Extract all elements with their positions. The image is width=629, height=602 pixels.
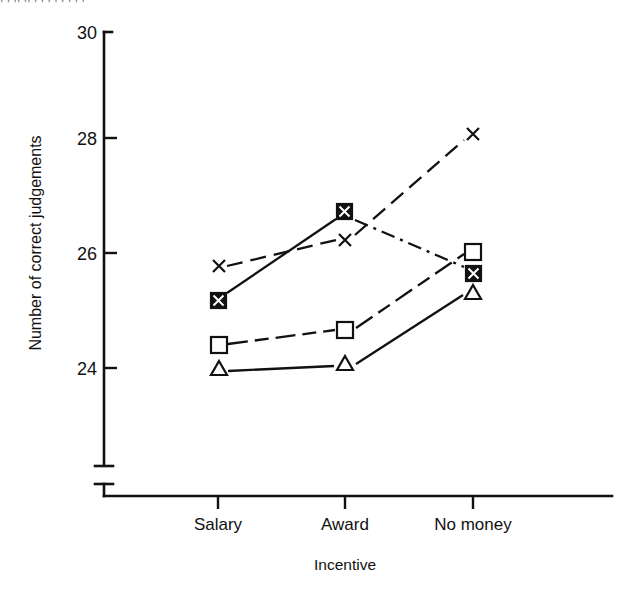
clipped-caption-text: , , ,, ,, , , , , , , , , (0, 0, 629, 3)
x-tick-label-award: Award (321, 515, 369, 534)
x-tick-label-no-money: No money (434, 515, 512, 534)
series-open-square-segment-2 (356, 254, 464, 328)
marker-cross-salary (213, 260, 225, 272)
series-crossed-square-segment-2 (355, 220, 464, 267)
series-crossed-square-segment-1 (227, 219, 336, 293)
x-axis: Salary Award No money Incentive (104, 496, 612, 573)
marker-crossed-square-award (337, 204, 352, 219)
marker-open-square-award (337, 322, 353, 338)
series-open-square-segment-1 (228, 330, 335, 344)
marker-open-triangle-salary (211, 361, 227, 375)
y-tick-label-30: 30 (77, 23, 97, 43)
y-axis: 30 28 26 24 Number of correct judgements (27, 23, 117, 496)
chart-figure: , , ,, ,, , , , , , , , , 30 28 26 24 Nu… (0, 0, 629, 602)
line-chart-svg: 30 28 26 24 Number of correct judgements… (0, 0, 629, 602)
marker-open-triangle-no-money (465, 285, 481, 299)
series-cross-segment-1 (227, 240, 336, 266)
marker-crossed-square-salary (211, 293, 226, 308)
y-tick-label-28: 28 (77, 129, 97, 149)
y-tick-label-26: 26 (77, 244, 97, 264)
x-tick-label-salary: Salary (194, 515, 243, 534)
series-cross (213, 128, 479, 272)
marker-crossed-square-no-money (466, 266, 481, 281)
y-tick-label-24: 24 (77, 359, 97, 379)
marker-open-square-salary (211, 337, 227, 353)
marker-open-triangle-award (337, 356, 353, 370)
series-crossed-square (211, 204, 481, 308)
y-axis-title: Number of correct judgements (27, 135, 44, 350)
x-axis-title: Incentive (314, 556, 376, 573)
marker-cross-award (339, 234, 351, 246)
series-cross-markers (213, 128, 479, 272)
series-open-triangle-segment-1 (228, 366, 334, 371)
marker-cross-no-money (467, 128, 479, 140)
series-open-triangle-segment-2 (356, 295, 463, 364)
marker-open-square-no-money (465, 244, 481, 260)
series-cross-segment-2 (355, 140, 464, 235)
